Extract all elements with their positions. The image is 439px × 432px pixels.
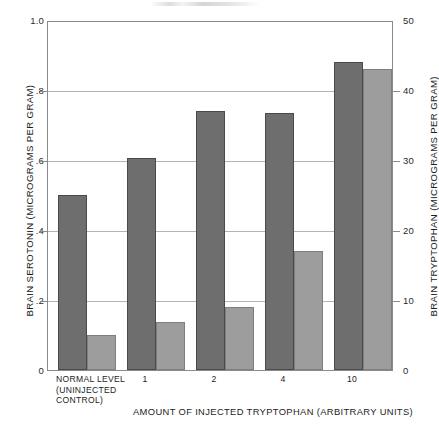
bar-serotonin (58, 195, 87, 370)
bar-tryptophan (87, 335, 116, 370)
category-label: 4 (253, 374, 313, 385)
x-axis-title: AMOUNT OF INJECTED TRYPTOPHAN (ARBITRARY… (120, 406, 426, 417)
left-axis-title: BRAIN SEROTONIN (MICROGRAMS PER GRAM) (24, 87, 35, 317)
category-label: 1 (115, 374, 175, 385)
right-axis-tick (393, 301, 400, 302)
category-label: 10 (322, 374, 382, 385)
left-axis-tick (40, 91, 47, 92)
category-label-line: (UNINJECTED (56, 385, 151, 396)
bar-tryptophan (225, 307, 254, 370)
scan-artifact (150, 2, 260, 6)
bar-tryptophan (294, 251, 323, 370)
bar-serotonin (265, 113, 294, 370)
right-axis-tick-label: 20 (403, 225, 414, 236)
category-label-line: CONTROL) (56, 395, 151, 406)
right-axis-tick (393, 91, 400, 92)
right-axis-tick (393, 161, 400, 162)
right-axis-tick-label: 50 (403, 15, 414, 26)
right-axis-tick-label: 30 (403, 155, 414, 166)
right-axis-title: BRAIN TRYPTOPHAN (MICROGRAMS PER GRAM) (428, 87, 439, 317)
left-axis-tick-label: 0 (39, 365, 44, 376)
bar-tryptophan (363, 69, 392, 370)
left-axis-tick (40, 231, 47, 232)
plot-area (47, 21, 393, 371)
bar-tryptophan (156, 322, 185, 370)
left-axis-tick-label: 1.0 (30, 15, 44, 26)
bar-serotonin (196, 111, 225, 370)
right-axis-tick-label: 0 (403, 365, 408, 376)
right-axis-tick-label: 10 (403, 295, 414, 306)
right-axis-tick (393, 231, 400, 232)
category-label: 2 (184, 374, 244, 385)
bar-serotonin (334, 62, 363, 370)
left-axis-tick (40, 161, 47, 162)
bar-serotonin (127, 158, 156, 370)
right-axis-tick-label: 40 (403, 85, 414, 96)
left-axis-tick (40, 301, 47, 302)
